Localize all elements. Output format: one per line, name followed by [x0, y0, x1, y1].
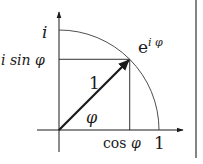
- imaginary-axis-label: i: [42, 22, 47, 42]
- i-sin-var: φ: [35, 52, 45, 68]
- i-sin-phi-label: i sin φ: [1, 52, 45, 68]
- cos-phi-label: cos φ: [103, 135, 141, 151]
- i-sin-prefix: i sin: [1, 52, 35, 68]
- cos-prefix: cos: [103, 135, 131, 151]
- euler-base: e: [138, 37, 148, 57]
- euler-point-label: ei φ: [138, 36, 163, 57]
- cos-var: φ: [131, 135, 141, 151]
- angle-label: φ: [86, 108, 98, 127]
- real-unit-label: 1: [154, 133, 165, 153]
- unit-circle-diagram: i i sin φ ei φ 1 φ cos φ 1: [0, 0, 203, 164]
- radius-label: 1: [89, 73, 100, 93]
- euler-exponent: i φ: [148, 36, 163, 49]
